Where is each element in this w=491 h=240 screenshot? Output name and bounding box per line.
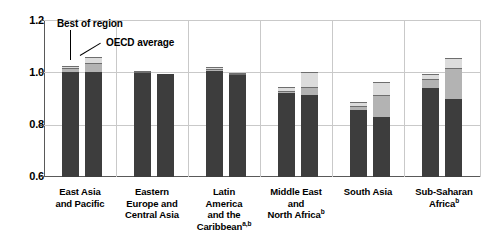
bar-segment-dark: [301, 95, 318, 177]
y-axis-tick-1-2: 1.2: [4, 15, 44, 26]
label-line: Caribbeana,b: [188, 221, 260, 233]
bar-best-of-region: [278, 87, 295, 177]
label-line: Central Asia: [116, 209, 188, 221]
label-line: and Pacific: [44, 198, 116, 210]
label-line: South Asia: [332, 186, 404, 198]
footnote-marker: b: [321, 208, 325, 215]
bar-segment-light: [445, 58, 462, 68]
gridline-0-8: [44, 125, 481, 126]
bar-segment-light: [373, 82, 390, 95]
footnote-marker: a,b: [242, 219, 251, 226]
x-axis-label-middle-east-and-north-africa: Middle East and North Africab: [260, 186, 332, 221]
label-line: Sub-Saharan: [404, 186, 484, 198]
bar-segment-mid: [445, 68, 462, 98]
bar-oecd-average: [85, 57, 102, 177]
label-text: North Africa: [267, 209, 320, 220]
label-line: East Asia: [44, 186, 116, 198]
annotation-oecd-average: OECD average: [106, 37, 174, 48]
x-axis-label-latin-america-and-the-caribbean: Latin America and the Caribbeana,b: [188, 186, 260, 232]
bar-best-of-region: [62, 66, 79, 177]
y-axis-tick-0-6: 0.6: [4, 171, 44, 182]
bar-segment-dark: [85, 72, 102, 177]
label-line: Eastern: [116, 186, 188, 198]
label-text: Caribbean: [197, 221, 243, 232]
bar-segment-dark: [373, 117, 390, 177]
group-separator-5: [404, 20, 405, 177]
x-axis-label-sub-saharan-africa: Sub-Saharan Africab: [404, 186, 484, 209]
bar-segment-light: [301, 72, 318, 86]
x-axis-label-eastern-europe-and-central-asia: Eastern Europe and Central Asia: [116, 186, 188, 221]
x-axis-label-east-asia-and-pacific: East Asia and Pacific: [44, 186, 116, 209]
label-line: North Africab: [260, 209, 332, 221]
annotation-leader-best-of-region: [70, 30, 71, 60]
gridline-1-0: [44, 72, 481, 73]
label-line: Latin: [188, 186, 260, 198]
bar-segment-dark: [278, 93, 295, 177]
y-tick-mark-1-2: [40, 20, 44, 21]
x-axis-line: [44, 176, 481, 177]
label-line: Middle East: [260, 186, 332, 198]
plot-right-edge: [480, 20, 481, 177]
bar-oecd-average: [157, 73, 174, 177]
y-axis-tick-1-0: 1.0: [4, 67, 44, 78]
y-tick-mark-1-0: [40, 72, 44, 73]
bar-segment-dark: [206, 71, 223, 177]
bar-oecd-average: [373, 82, 390, 178]
annotation-best-of-region: Best of region: [57, 18, 123, 29]
bar-oecd-average: [445, 58, 462, 177]
group-separator-2: [188, 20, 189, 177]
group-separator-3: [260, 20, 261, 177]
bar-best-of-region: [350, 102, 367, 177]
footnote-marker: b: [455, 196, 459, 203]
label-line: Europe and: [116, 198, 188, 210]
bar-oecd-average: [229, 73, 246, 177]
bar-best-of-region: [134, 71, 151, 177]
bar-best-of-region: [422, 74, 439, 177]
bar-segment-mid: [85, 63, 102, 72]
group-separator-4: [332, 20, 333, 177]
label-line: America: [188, 198, 260, 210]
bar-segment-dark: [445, 99, 462, 178]
bar-segment-dark: [134, 73, 151, 177]
y-tick-mark-0-8: [40, 125, 44, 126]
chart-container: 1.2 1.0 0.8 0.6 Best of region OECD aver…: [0, 0, 491, 240]
bar-segment-dark: [157, 74, 174, 177]
bar-segment-mid: [422, 79, 439, 88]
bar-segment-dark: [422, 88, 439, 177]
y-axis-tick-0-8: 0.8: [4, 119, 44, 130]
bar-segment-dark: [62, 72, 79, 177]
y-tick-mark-0-6: [40, 176, 44, 177]
label-line: Africab: [404, 198, 484, 210]
x-axis-label-south-asia: South Asia: [332, 186, 404, 198]
bar-segment-mid: [373, 95, 390, 117]
bar-oecd-average: [301, 72, 318, 177]
bar-best-of-region: [206, 67, 223, 177]
bar-segment-dark: [229, 75, 246, 177]
label-text: Africa: [429, 198, 455, 209]
bar-segment-dark: [350, 110, 367, 177]
bar-segment-mid: [301, 87, 318, 95]
y-axis-line: [44, 20, 45, 177]
